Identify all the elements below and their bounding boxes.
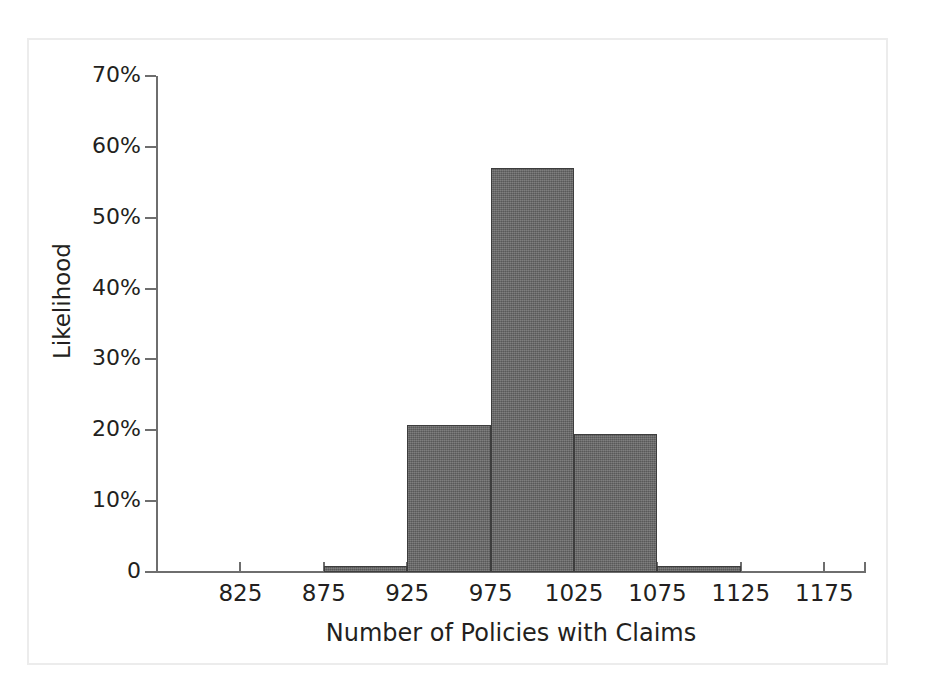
y-axis-tick bbox=[145, 500, 156, 502]
y-axis-tick-label: 10% bbox=[57, 489, 141, 511]
y-axis-tick bbox=[145, 288, 156, 290]
y-axis-tick bbox=[145, 75, 156, 77]
y-axis-tick-label: 0 bbox=[57, 560, 141, 582]
y-axis-tick bbox=[145, 429, 156, 431]
x-axis-end-cap bbox=[864, 562, 866, 573]
y-axis-tick-label: 20% bbox=[57, 418, 141, 440]
bar bbox=[574, 434, 657, 572]
y-axis-line bbox=[156, 76, 158, 573]
y-axis-tick-label-wrap: 60% bbox=[46, 135, 141, 159]
bar bbox=[657, 566, 740, 572]
y-axis-tick-label: 60% bbox=[57, 135, 141, 157]
y-axis-tick-label: 70% bbox=[57, 64, 141, 86]
x-axis-tick-label: 1175 bbox=[764, 580, 884, 608]
y-axis-tick-label: 50% bbox=[57, 206, 141, 228]
y-axis-tick bbox=[145, 571, 156, 573]
y-axis-tick-label-wrap: 10% bbox=[46, 489, 141, 513]
x-axis-title: Number of Policies with Claims bbox=[156, 619, 866, 647]
bar bbox=[491, 168, 574, 572]
x-axis-tick bbox=[823, 562, 825, 572]
y-axis-tick bbox=[145, 146, 156, 148]
y-axis-tick-label-wrap: 70% bbox=[46, 64, 141, 88]
y-axis-tick-label-wrap: 50% bbox=[46, 206, 141, 230]
x-axis-tick bbox=[239, 562, 241, 572]
y-axis-tick-label-wrap: 20% bbox=[46, 418, 141, 442]
bar bbox=[407, 425, 490, 572]
chart-plot-area: 010%20%30%40%50%60%70% 82587592597510251… bbox=[0, 0, 928, 697]
y-axis-tick bbox=[145, 358, 156, 360]
bar bbox=[324, 566, 407, 572]
y-axis-tick bbox=[145, 217, 156, 219]
y-axis-tick-label-wrap: 0 bbox=[46, 560, 141, 584]
y-axis-title: Likelihood bbox=[49, 231, 75, 371]
